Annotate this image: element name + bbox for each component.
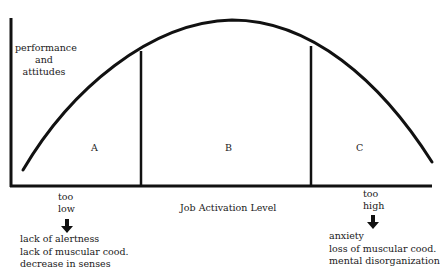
effect-item: loss of muscular cood. — [329, 243, 440, 256]
low-effects-list: lack of alertness lack of muscular cood.… — [20, 233, 129, 271]
effect-item: lack of muscular cood. — [20, 246, 129, 259]
y-label-line: performance — [15, 42, 73, 54]
effect-item: decrease in senses — [20, 258, 129, 271]
too-high-line: too — [363, 188, 384, 200]
region-a-label: A — [91, 142, 98, 154]
effect-item: anxiety — [329, 230, 440, 243]
region-b-label: B — [225, 142, 232, 154]
x-axis-label: Job Activation Level — [180, 202, 276, 214]
too-high-label: too high — [363, 188, 384, 212]
too-low-line: low — [58, 203, 75, 215]
y-label-line: attitudes — [15, 66, 73, 78]
effect-item: mental disorganization — [329, 255, 440, 268]
y-label-line: and — [15, 54, 73, 66]
down-arrow-icon — [61, 219, 73, 233]
too-low-line: too — [58, 191, 75, 203]
y-axis-label: performance and attitudes — [15, 42, 73, 78]
region-c-label: C — [356, 142, 363, 154]
down-arrow-icon — [367, 215, 379, 229]
high-effects-list: anxiety loss of muscular cood. mental di… — [329, 230, 440, 268]
effect-item: lack of alertness — [20, 233, 129, 246]
too-high-line: high — [363, 200, 384, 212]
too-low-label: too low — [58, 191, 75, 215]
